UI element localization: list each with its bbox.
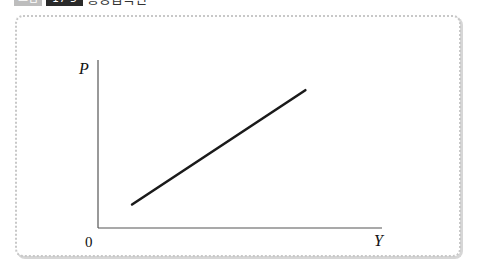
origin-label: 0 <box>85 234 93 250</box>
y-axis-label: P <box>78 60 89 77</box>
chart-plot: P Y 0 <box>0 0 477 276</box>
x-axis-label: Y <box>374 232 385 249</box>
supply-curve-line <box>132 90 305 204</box>
